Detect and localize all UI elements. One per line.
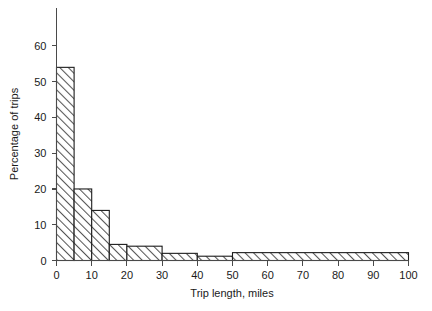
x-tick-label: 90 xyxy=(367,269,379,281)
y-tick-label: 30 xyxy=(34,147,46,159)
x-axis-ticks: 0102030405060708090100 xyxy=(53,261,417,281)
x-tick-label: 100 xyxy=(399,269,417,281)
x-tick-label: 20 xyxy=(121,269,133,281)
y-tick-label: 50 xyxy=(34,76,46,88)
histogram-bar xyxy=(162,253,197,260)
x-tick-label: 50 xyxy=(226,269,238,281)
histogram-bar xyxy=(109,244,127,260)
histogram-bar xyxy=(197,256,232,260)
x-tick-label: 60 xyxy=(262,269,274,281)
histogram-figure: 0102030405060 0102030405060708090100 Tri… xyxy=(0,0,432,311)
bars-group xyxy=(57,67,409,260)
chart-canvas: 0102030405060 0102030405060708090100 Tri… xyxy=(0,0,432,311)
x-axis-title: Trip length, miles xyxy=(190,287,274,299)
y-tick-label: 10 xyxy=(34,219,46,231)
y-tick-label: 60 xyxy=(34,40,46,52)
histogram-bar xyxy=(233,253,409,261)
x-tick-label: 10 xyxy=(86,269,98,281)
histogram-bar xyxy=(74,189,92,261)
x-tick-label: 40 xyxy=(191,269,203,281)
y-tick-label: 20 xyxy=(34,183,46,195)
y-tick-label: 40 xyxy=(34,111,46,123)
x-tick-label: 70 xyxy=(297,269,309,281)
y-axis-title: Percentage of trips xyxy=(8,87,20,180)
histogram-bar xyxy=(127,246,162,260)
y-axis-ticks: 0102030405060 xyxy=(34,40,56,267)
histogram-bar xyxy=(92,210,110,260)
y-tick-label: 0 xyxy=(40,255,46,267)
histogram-bar xyxy=(57,67,75,260)
x-tick-label: 0 xyxy=(53,269,59,281)
x-tick-label: 30 xyxy=(156,269,168,281)
x-tick-label: 80 xyxy=(332,269,344,281)
